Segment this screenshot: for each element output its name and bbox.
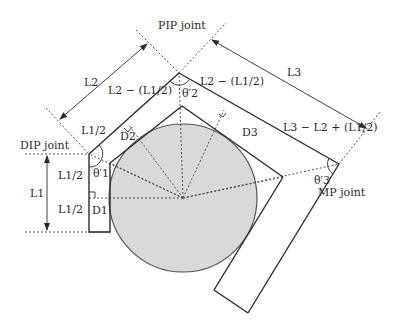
l2-minus-half-l1-right-label: L2 − (L1/2): [200, 76, 264, 87]
l2-label: L2: [84, 77, 98, 88]
d2-label: D2: [120, 131, 136, 142]
l1-label: L1: [30, 188, 44, 199]
d1-right-angle: [89, 192, 95, 198]
l3-minus-l2-plus-half-l1-label: L3 − L2 + (L1/2): [283, 122, 378, 133]
pip-joint-label: PIP joint: [158, 20, 206, 31]
theta1-label: θ′1: [93, 168, 109, 179]
finger-geometry-diagram: [0, 0, 398, 334]
l1-half-upper-left-label: L1/2: [81, 125, 106, 136]
l1-half-mid-label: L1/2: [58, 170, 83, 181]
d1-label: D1: [92, 205, 108, 216]
theta2-label: θ′2: [182, 88, 198, 99]
theta3-label: θ′3: [314, 175, 330, 186]
l1-half-lower-label: L1/2: [58, 204, 83, 215]
l2-minus-half-l1-left-label: L2 − (L1/2): [108, 85, 172, 96]
dip-joint-label: DIP joint: [20, 140, 69, 151]
d3-label: D3: [242, 127, 258, 138]
mp-joint-label: MP joint: [318, 187, 365, 198]
proximal-end: [214, 290, 248, 313]
distal-phalanx: [89, 154, 110, 232]
l3-label: L3: [287, 67, 301, 78]
l2-arrow: [60, 44, 147, 119]
